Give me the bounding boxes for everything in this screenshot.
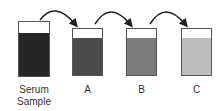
label-serum: Serum: [10, 84, 58, 96]
container-a: [72, 28, 103, 76]
fill-b: [127, 38, 156, 75]
label-a: A: [72, 84, 103, 96]
serum-sample-container: [18, 21, 50, 77]
fill-a: [73, 38, 102, 75]
arrow-a-to-b: [95, 12, 130, 24]
fill-c: [182, 38, 211, 75]
label-sample: Sample: [10, 96, 58, 108]
label-c: C: [181, 84, 212, 96]
label-serum-sample: Serum Sample: [10, 84, 58, 108]
label-b: B: [126, 84, 157, 96]
container-c: [181, 28, 212, 76]
serum-fill: [19, 33, 49, 76]
arrow-b-to-c: [150, 12, 185, 24]
container-b: [126, 28, 157, 76]
